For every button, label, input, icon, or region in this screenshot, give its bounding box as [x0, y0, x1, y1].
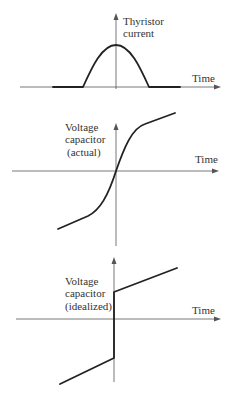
y-label-line-1: Voltage	[65, 275, 99, 287]
y-axis-arrow-icon	[112, 257, 117, 264]
x-axis-arrow-icon	[214, 85, 221, 90]
x-label: Time	[192, 72, 215, 84]
y-label-line-2: capacitor	[65, 133, 106, 145]
panel-voltage-capacitor-idealized: Voltage capacitor (idealized) Time	[16, 257, 221, 384]
x-axis-arrow-icon	[214, 317, 221, 322]
panel-voltage-capacitor-actual: Voltage capacitor (actual) Time	[12, 113, 219, 246]
y-axis-arrow-icon	[114, 13, 119, 20]
x-axis-arrow-icon	[212, 169, 219, 174]
y-label-line-3: (idealized)	[65, 300, 112, 313]
y-label-line-2: capacitor	[65, 287, 106, 299]
panel-thyristor-current: Thyristor current Time	[20, 13, 221, 90]
thyristor-current-curve	[53, 45, 180, 87]
diagram-canvas: Thyristor current Time Voltage capacitor…	[0, 0, 232, 402]
y-label-line-2: current	[123, 27, 154, 39]
y-label-line-1: Voltage	[65, 121, 99, 133]
y-label-line-3: (actual)	[67, 146, 101, 159]
y-axis-arrow-icon	[114, 123, 119, 130]
x-label: Time	[192, 304, 215, 316]
y-label-line-1: Thyristor	[123, 15, 164, 27]
x-label: Time	[195, 153, 218, 165]
